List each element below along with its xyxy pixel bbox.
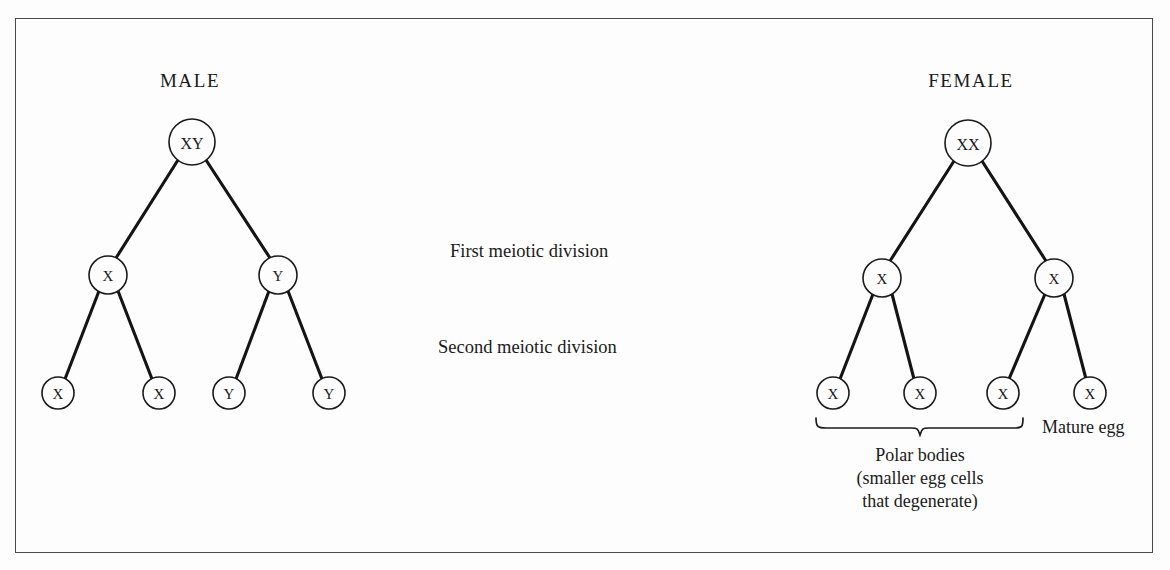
male-root-label: XY [180, 135, 204, 152]
female-first-division-edges [890, 161, 1046, 261]
male-first-division-edges [116, 160, 270, 258]
male-panel-title: MALE [160, 70, 220, 91]
male-edge-y-right [288, 291, 322, 379]
female-edge-root-left [890, 161, 954, 261]
female-node-tier2-1: X [1035, 259, 1073, 297]
female-tier3-1-label: X [915, 386, 926, 402]
male-second-division-edges [65, 291, 322, 379]
male-edge-x-left [65, 291, 99, 379]
male-node-tier3-2: Y [213, 377, 245, 409]
male-tier3-0-label: X [53, 386, 64, 402]
polar-bodies-line-1: Polar bodies [875, 445, 965, 465]
male-node-tier3-3: Y [313, 377, 345, 409]
stage-label-second-meiotic-division: Second meiotic division [438, 337, 617, 357]
stage-label-first-meiotic-division: First meiotic division [450, 241, 608, 261]
male-node-tier2-0: X [89, 256, 127, 294]
male-tier3-1-label: X [154, 386, 165, 402]
female-node-tier3-0: X [817, 377, 849, 409]
male-edge-root-left [116, 160, 178, 258]
female-edge-root-right [982, 161, 1046, 261]
female-tier2-1-label: X [1049, 271, 1060, 287]
male-tier2-0-label: X [103, 268, 114, 284]
female-node-tier3-3: X [1074, 377, 1106, 409]
female-edge-right-x-left [1009, 294, 1045, 379]
male-tier3-2-label: Y [224, 386, 235, 402]
stage-labels: First meiotic division Second meiotic di… [438, 241, 617, 357]
male-node-tier3-1: X [143, 377, 175, 409]
male-node-tier2-1: Y [259, 256, 297, 294]
male-tier2-1-label: Y [273, 268, 284, 284]
female-edge-left-x-right [892, 294, 914, 379]
female-second-division-edges [840, 294, 1086, 379]
female-panel-title: FEMALE [928, 70, 1014, 91]
female-edge-left-x-left [840, 294, 873, 379]
polar-bodies-caption: Polar bodies (smaller egg cells that deg… [857, 445, 984, 512]
female-tier3-0-label: X [828, 386, 839, 402]
male-panel: MALE XY X [42, 70, 345, 409]
polar-bodies-brace [816, 418, 1023, 435]
female-node-tier3-1: X [904, 377, 936, 409]
figure-root: MALE XY X [0, 0, 1170, 570]
male-node-root: XY [169, 119, 215, 165]
male-edge-y-left [236, 291, 269, 379]
meiosis-diagram: MALE XY X [0, 0, 1170, 570]
female-node-tier2-0: X [863, 259, 901, 297]
female-tier3-2-label: X [998, 386, 1009, 402]
female-edge-right-x-right [1064, 294, 1086, 379]
male-node-tier3-0: X [42, 377, 74, 409]
mature-egg-label: Mature egg [1042, 417, 1124, 437]
polar-bodies-line-2: (smaller egg cells [857, 468, 984, 489]
female-node-root: XX [945, 120, 991, 166]
female-tier2-0-label: X [877, 271, 888, 287]
male-tier3-3-label: Y [324, 386, 335, 402]
female-panel: FEMALE XX X [816, 70, 1124, 512]
polar-bodies-line-3: that degenerate) [862, 491, 977, 512]
male-edge-x-right [118, 291, 152, 379]
female-node-tier3-2: X [987, 377, 1019, 409]
female-root-label: XX [956, 136, 980, 153]
male-edge-root-right [206, 160, 270, 258]
female-tier3-3-label: X [1085, 386, 1096, 402]
